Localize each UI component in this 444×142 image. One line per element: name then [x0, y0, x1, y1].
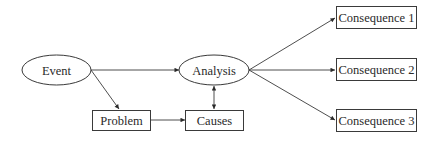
edge-analysis-consequence1	[249, 18, 335, 70]
edge-analysis-consequence3	[249, 70, 335, 120]
node-consequence-2-label: Consequence 2	[338, 63, 414, 77]
node-consequence-1-label: Consequence 1	[338, 11, 414, 25]
node-event-label: Event	[42, 64, 72, 78]
node-analysis: Analysis	[179, 55, 249, 85]
flowchart-diagram: Event Analysis Problem Causes Consequenc…	[0, 0, 444, 142]
node-consequence-1: Consequence 1	[337, 7, 417, 29]
edge-event-problem	[91, 70, 119, 109]
node-event: Event	[22, 55, 91, 85]
node-causes: Causes	[186, 111, 244, 131]
node-consequence-3-label: Consequence 3	[338, 114, 414, 128]
node-analysis-label: Analysis	[192, 64, 236, 78]
node-consequence-2: Consequence 2	[337, 59, 417, 81]
node-problem-label: Problem	[100, 114, 143, 128]
node-problem: Problem	[93, 111, 151, 131]
node-consequence-3: Consequence 3	[337, 110, 417, 132]
node-causes-label: Causes	[197, 114, 233, 128]
